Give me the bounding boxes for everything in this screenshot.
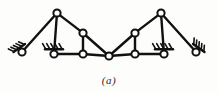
joint-left-apex-joint <box>53 9 60 16</box>
joint-left-inner-base-joint <box>79 50 86 57</box>
support-left-anchor-hatch <box>11 47 17 50</box>
joint-right-apex-joint <box>157 9 164 16</box>
member-C0-R4 <box>112 54 132 56</box>
member-C0-R3 <box>111 35 133 54</box>
support-right-anchor-hatch <box>196 40 197 46</box>
member-L4-C0 <box>86 54 106 56</box>
support-left-anchor-hatch <box>13 45 19 48</box>
support-left-anchor-hatch <box>16 44 22 47</box>
figure-caption: (a) <box>0 74 218 87</box>
joint-right-base-joint <box>160 50 167 57</box>
joint-right-inner-base-joint <box>131 50 138 57</box>
support-right-anchor-hatch <box>204 45 205 51</box>
supports-layer <box>8 38 204 52</box>
member-L2-L3 <box>59 15 80 31</box>
joint-right-inner-top-joint <box>131 29 138 36</box>
figure-root: (a) <box>0 0 218 93</box>
member-R3-R2 <box>137 15 158 31</box>
member-L3-C0 <box>85 35 107 54</box>
joints-layer <box>18 9 199 59</box>
member-R2-R0 <box>163 15 194 50</box>
support-left-anchor-hatch <box>19 42 25 45</box>
joint-left-base-joint <box>50 50 57 57</box>
joint-left-anchor-pin <box>18 48 25 55</box>
support-right-anchor-hatch <box>194 38 195 44</box>
support-left-anchor-hatch <box>8 49 14 52</box>
joint-center-crown-hinge <box>105 52 112 59</box>
support-right-anchor-hatch <box>201 44 202 50</box>
support-right-anchor-hatch <box>199 42 200 48</box>
joint-right-anchor-pin <box>192 48 199 55</box>
joint-left-inner-top-joint <box>79 29 86 36</box>
member-L0-L2 <box>24 15 55 50</box>
support-left-base <box>43 44 63 50</box>
